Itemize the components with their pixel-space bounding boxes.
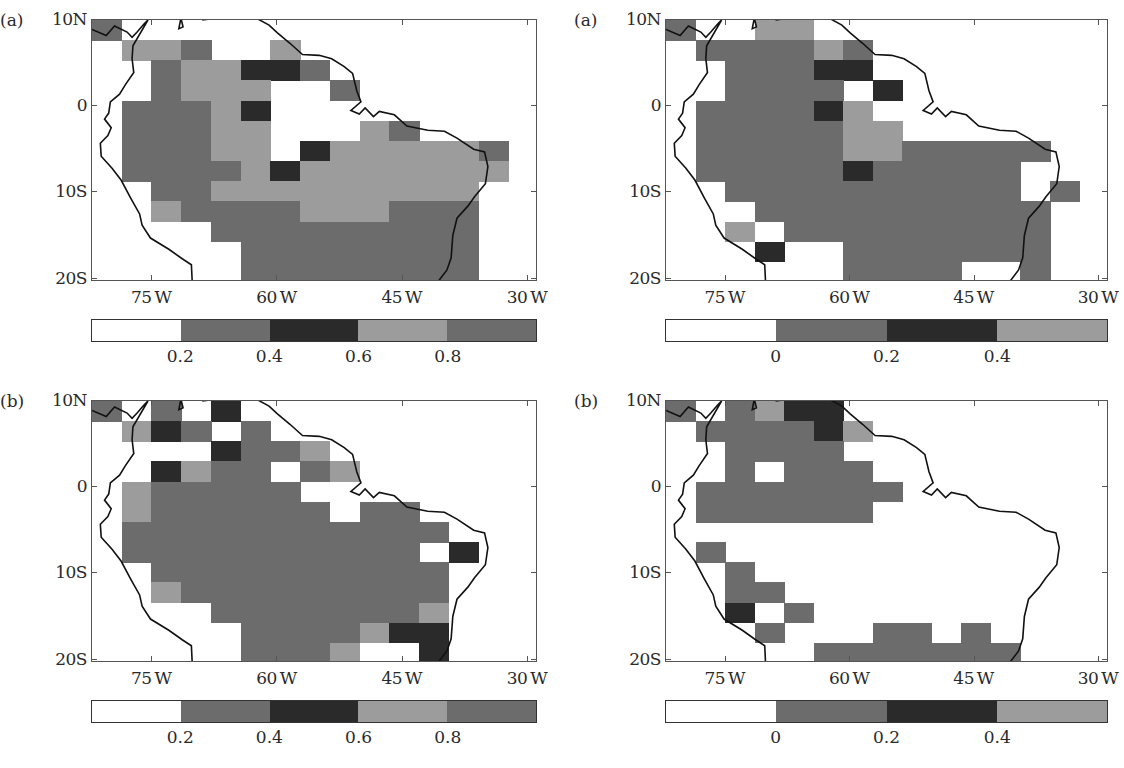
- grid-cell: [784, 80, 814, 101]
- colorbar-segment: [887, 701, 997, 722]
- colorbar-segment: [447, 701, 536, 722]
- grid-cell: [300, 222, 330, 243]
- grid-cell: [181, 461, 211, 482]
- grid-cell: [755, 121, 785, 142]
- grid-cell: [181, 101, 211, 122]
- grid-cell: [300, 161, 330, 182]
- x-tick: [974, 400, 975, 406]
- grid-cell: [330, 461, 360, 482]
- y-tick: [1102, 278, 1108, 279]
- y-tick: [531, 486, 537, 487]
- x-tick: [974, 656, 975, 662]
- x-tick-label: 75 W: [695, 669, 755, 687]
- grid-cell: [241, 421, 271, 442]
- grid-cell: [181, 181, 211, 202]
- grid-cell: [932, 161, 962, 182]
- x-tick-label: 30 W: [497, 669, 557, 687]
- grid-cell: [122, 101, 152, 122]
- grid-cell: [419, 141, 449, 162]
- grid-cell: [181, 421, 211, 442]
- y-tick: [665, 105, 671, 106]
- grid-cell: [843, 461, 873, 482]
- grid-cell: [389, 582, 419, 603]
- grid-cell: [449, 201, 479, 222]
- grid-cell: [784, 121, 814, 142]
- grid-cell: [1020, 262, 1050, 281]
- grid-cell: [151, 522, 181, 543]
- grid-cell: [961, 201, 991, 222]
- colorbar-segment: [358, 701, 447, 722]
- grid-cell: [725, 502, 755, 523]
- grid-cell: [873, 262, 903, 281]
- x-tick-label: 30 W: [1068, 288, 1124, 306]
- grid-cell: [181, 562, 211, 583]
- grid-cell: [300, 522, 330, 543]
- y-tick: [1102, 191, 1108, 192]
- y-tick-label: 10S: [27, 563, 87, 581]
- y-tick: [91, 278, 97, 279]
- grid-cell: [696, 101, 726, 122]
- grid-cell: [725, 441, 755, 462]
- grid-cell: [122, 421, 152, 442]
- grid-cell: [814, 141, 844, 162]
- colorbar-segment: [776, 320, 886, 341]
- colorbar-tick-label: 0.8: [423, 728, 473, 746]
- grid-cell: [843, 201, 873, 222]
- grid-cell: [419, 603, 449, 624]
- grid-cell: [725, 482, 755, 503]
- grid-cell: [902, 201, 932, 222]
- y-tick-label: 10S: [601, 563, 661, 581]
- grid-cell: [1020, 222, 1050, 243]
- grid-cell: [389, 603, 419, 624]
- x-tick-label: 60 W: [246, 288, 306, 306]
- grid-cell: [843, 502, 873, 523]
- y-tick: [91, 19, 97, 20]
- grid-cell: [360, 522, 390, 543]
- grid-cell: [92, 20, 122, 41]
- grid-cell: [241, 161, 271, 182]
- x-tick-label: 30 W: [497, 288, 557, 306]
- y-tick: [665, 400, 671, 401]
- x-tick-label: 60 W: [819, 288, 879, 306]
- grid-cell: [270, 201, 300, 222]
- grid-cell: [330, 582, 360, 603]
- colorbar: [665, 700, 1108, 723]
- y-tick: [91, 105, 97, 106]
- grid-cell: [419, 222, 449, 243]
- grid-cell: [389, 562, 419, 583]
- grid-cell: [1020, 201, 1050, 222]
- grid-cell: [151, 181, 181, 202]
- grid-cell: [241, 181, 271, 202]
- grid-cell: [902, 262, 932, 281]
- x-tick-label: 60 W: [246, 669, 306, 687]
- grid-cell: [419, 201, 449, 222]
- y-tick-label: 0: [601, 96, 661, 114]
- grid-cell: [151, 482, 181, 503]
- x-tick: [849, 19, 850, 25]
- grid-cell: [961, 181, 991, 202]
- y-tick: [531, 572, 537, 573]
- grid-cell: [419, 242, 449, 263]
- x-tick: [1098, 400, 1099, 406]
- grid-cell: [814, 643, 844, 662]
- y-tick-label: 0: [27, 96, 87, 114]
- x-tick: [402, 656, 403, 662]
- grid-cell: [873, 482, 903, 503]
- grid-cell: [330, 222, 360, 243]
- grid-cell: [122, 40, 152, 61]
- x-tick: [151, 400, 152, 406]
- grid-cell: [211, 401, 241, 422]
- grid-cell: [122, 502, 152, 523]
- grid-cell: [151, 161, 181, 182]
- y-tick: [531, 105, 537, 106]
- y-tick: [665, 278, 671, 279]
- grid-cell: [814, 401, 844, 422]
- grid-cell: [330, 562, 360, 583]
- x-tick-label: 75 W: [695, 288, 755, 306]
- y-tick-label: 10S: [601, 182, 661, 200]
- grid-cell: [360, 603, 390, 624]
- grid-cell: [211, 222, 241, 243]
- colorbar-tick-label: 0.2: [862, 347, 912, 365]
- grid-cell: [755, 502, 785, 523]
- x-tick-label: 30 W: [1068, 669, 1124, 687]
